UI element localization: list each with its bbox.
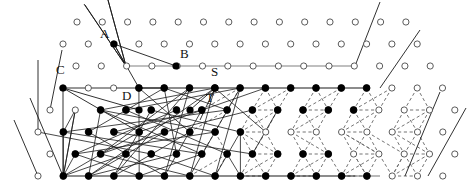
- lattice-node-filled: [224, 107, 231, 114]
- node-layer: [35, 19, 458, 180]
- lattice-node-filled: [198, 151, 205, 158]
- lattice-node-hollow: [124, 63, 130, 69]
- graph-edge: [151, 154, 215, 176]
- lattice-node-hollow: [150, 19, 156, 25]
- lattice-node-hollow: [440, 129, 446, 135]
- graph-edge: [50, 50, 62, 110]
- lattice-node-filled: [136, 85, 143, 92]
- lattice-node-filled: [111, 129, 118, 136]
- lattice-node-filled: [161, 173, 168, 180]
- lattice-node-hollow: [427, 63, 433, 69]
- lattice-node-hollow: [302, 19, 308, 25]
- lattice-node-filled: [325, 151, 332, 158]
- lattice-node-filled: [97, 107, 104, 114]
- lattice-node-filled: [313, 85, 320, 92]
- vertex-label-A: A: [100, 27, 109, 40]
- lattice-node-hollow: [301, 63, 307, 69]
- lattice-node-filled: [262, 85, 269, 92]
- lattice-node-hollow: [313, 129, 319, 135]
- lattice-node-filled: [274, 151, 281, 158]
- lattice-node-filled: [85, 129, 92, 136]
- lattice-node-filled: [237, 173, 244, 180]
- lattice-node-hollow: [136, 41, 142, 47]
- lattice-node-filled: [287, 85, 294, 92]
- graph-edge: [14, 120, 38, 176]
- lattice-canvas: [0, 0, 475, 193]
- lattice-node-hollow: [414, 85, 420, 91]
- lattice-node-hollow: [99, 19, 105, 25]
- lattice-node-filled: [136, 129, 143, 136]
- lattice-node-hollow: [389, 85, 395, 91]
- lattice-node-filled: [186, 173, 193, 180]
- lattice-node-hollow: [262, 41, 268, 47]
- graph-edge: [428, 108, 466, 176]
- lattice-graph-figure: A B C D S T: [0, 0, 475, 193]
- vertex-label-D: D: [122, 89, 131, 102]
- lattice-node-filled: [274, 107, 281, 114]
- lattice-node-hollow: [125, 19, 131, 25]
- lattice-node-hollow: [200, 19, 206, 25]
- lattice-node-hollow: [452, 151, 458, 157]
- lattice-node-filled: [288, 173, 295, 180]
- lattice-node-hollow: [401, 107, 407, 113]
- lattice-node-hollow: [73, 63, 79, 69]
- lattice-node-hollow: [389, 129, 395, 135]
- lattice-node-filled: [237, 129, 244, 136]
- lattice-node-hollow: [250, 63, 256, 69]
- dashed-edge: [404, 88, 417, 110]
- lattice-node-filled: [237, 85, 244, 92]
- dashed-edge: [303, 154, 316, 176]
- lattice-node-hollow: [275, 63, 281, 69]
- dashed-edge: [354, 132, 367, 154]
- graph-edge: [355, 2, 380, 66]
- lattice-node-hollow: [352, 19, 358, 25]
- lattice-node-filled: [186, 129, 193, 136]
- vertex-label-B: B: [180, 47, 189, 60]
- lattice-node-filled: [97, 151, 104, 158]
- lattice-node-hollow: [60, 41, 66, 47]
- dashed-edge: [404, 110, 417, 132]
- lattice-node-filled: [173, 151, 180, 158]
- lattice-node-filled: [198, 107, 205, 114]
- lattice-node-filled: [262, 173, 269, 180]
- lattice-node-filled: [123, 107, 130, 114]
- lattice-node-hollow: [251, 19, 257, 25]
- lattice-node-hollow: [439, 85, 445, 91]
- graph-edge: [227, 154, 240, 176]
- lattice-node-hollow: [47, 151, 53, 157]
- lattice-node-filled: [60, 129, 67, 136]
- graph-edge: [215, 88, 266, 132]
- lattice-node-filled: [338, 173, 345, 180]
- dashed-edge: [303, 110, 316, 132]
- lattice-node-hollow: [175, 19, 181, 25]
- lattice-node-hollow: [426, 107, 432, 113]
- lattice-node-filled: [212, 129, 219, 136]
- dashed-edge: [417, 88, 429, 110]
- lattice-node-hollow: [414, 129, 420, 135]
- lattice-node-hollow: [74, 19, 80, 25]
- graph-edge: [89, 110, 101, 176]
- dashed-edge: [303, 132, 316, 154]
- lattice-node-hollow: [414, 173, 420, 179]
- lattice-node-hollow: [327, 19, 333, 25]
- graph-edge: [380, 30, 420, 88]
- lattice-node-filled: [161, 85, 168, 92]
- lattice-node-hollow: [389, 41, 395, 47]
- lattice-node-hollow: [426, 151, 432, 157]
- lattice-node-hollow: [389, 173, 395, 179]
- lattice-node-hollow: [403, 19, 409, 25]
- lattice-node-hollow: [98, 63, 104, 69]
- vertex-label-C: C: [56, 63, 65, 76]
- lattice-node-filled: [111, 173, 118, 180]
- lattice-node-hollow: [313, 41, 319, 47]
- lattice-node-hollow: [351, 151, 357, 157]
- lattice-node-filled: [364, 173, 371, 180]
- lattice-node-filled: [123, 151, 130, 158]
- lattice-node-hollow: [376, 107, 382, 113]
- dashed-edge: [252, 154, 265, 176]
- lattice-node-hollow: [161, 41, 167, 47]
- lattice-node-hollow: [351, 63, 357, 69]
- lattice-node-hollow: [414, 41, 420, 47]
- lattice-node-hollow: [35, 173, 41, 179]
- lattice-node-hollow: [364, 41, 370, 47]
